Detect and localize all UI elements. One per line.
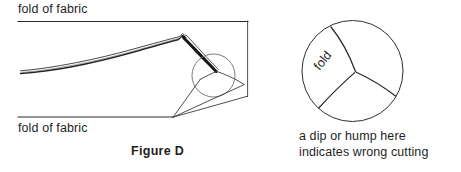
- fabric-bias-edge-thin: [186, 35, 218, 69]
- callout-ray-lower: [173, 85, 244, 118]
- callout-ray-upper: [173, 96, 248, 117]
- detail-caption-line-1: a dip or hump here: [299, 128, 428, 144]
- pattern-piece-group: [18, 21, 248, 117]
- detail-caption-line-2: indicates wrong cutting: [299, 144, 428, 160]
- detail-seam-down-left: [319, 73, 355, 108]
- seam-branch-lower-left: [200, 72, 216, 80]
- label-fold-of-fabric-top: fold of fabric: [18, 2, 88, 17]
- detail-seam-right: [356, 72, 395, 96]
- detail-circle-icon: [302, 21, 403, 122]
- figure-d-illustration: fold of fabric fold of fabric Figure D f…: [0, 0, 461, 172]
- detail-caption: a dip or hump here indicates wrong cutti…: [299, 128, 428, 160]
- detail-seam-up: [331, 27, 356, 72]
- seam-branch-right: [217, 71, 244, 84]
- fabric-edge-upper: [21, 37, 179, 71]
- detail-circle-group: [302, 21, 403, 122]
- figure-title: Figure D: [131, 144, 184, 159]
- label-fold-of-fabric-bottom: fold of fabric: [18, 121, 88, 136]
